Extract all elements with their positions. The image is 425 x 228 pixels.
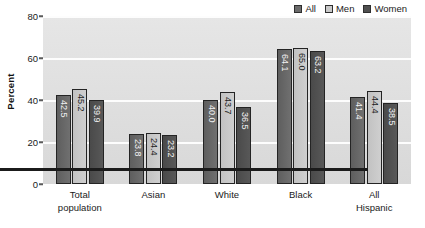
bar-asian-men[interactable]: 24.4 (146, 133, 161, 184)
y-tick-label: 0 (5, 179, 43, 190)
bar-value-label: 41.4 (353, 102, 362, 120)
bar-black-men[interactable]: 65.0 (293, 48, 308, 185)
bar-total-population-women[interactable]: 39.9 (89, 100, 104, 184)
bar-white-all[interactable]: 40.0 (203, 100, 218, 184)
plot-area-wrapper: 42.545.239.923.824.423.240.043.736.564.1… (43, 16, 411, 184)
bar-groups: 42.545.239.923.824.423.240.043.736.564.1… (43, 16, 411, 184)
x-axis-label-line1: Total (70, 189, 90, 200)
x-axis-label: AllHispanic (337, 189, 411, 214)
bar-total-population-all[interactable]: 42.5 (56, 95, 71, 184)
x-axis-label-line1: All (369, 189, 380, 200)
bar-group: 64.165.063.2 (277, 16, 325, 184)
bar-all-hispanic-men[interactable]: 44.4 (367, 91, 382, 184)
y-tick-label: 80 (5, 11, 43, 22)
bar-value-label: 40.0 (206, 105, 215, 123)
bar-value-label: 45.2 (75, 94, 84, 112)
legend-swatch-icon (325, 5, 333, 13)
y-tick-label: 20 (5, 137, 43, 148)
legend-swatch-icon (294, 5, 302, 13)
bar-value-label: 38.5 (386, 108, 395, 126)
bar-value-label: 23.2 (165, 140, 174, 158)
bar-group: 23.824.423.2 (129, 16, 177, 184)
bar-value-label: 63.2 (313, 56, 322, 74)
bar-all-hispanic-women[interactable]: 38.5 (383, 103, 398, 184)
x-axis-label: Black (264, 189, 338, 202)
legend-item-women[interactable]: Women (363, 4, 407, 14)
bar-chart: AllMenWomen Percent 020406080 42.545.239… (0, 0, 425, 228)
x-axis-label: Asian (117, 189, 191, 202)
bar-value-label: 24.4 (149, 138, 158, 156)
bar-value-label: 42.5 (59, 100, 68, 118)
x-axis-label-line1: White (215, 189, 239, 200)
bar-group: 42.545.239.9 (56, 16, 104, 184)
bar-group: 41.444.438.5 (350, 16, 398, 184)
y-axis-ticks: 020406080 (0, 16, 43, 184)
x-axis-line (0, 168, 368, 171)
legend-label: Women (374, 4, 407, 14)
x-axis-labels: TotalpopulationAsianWhiteBlackAllHispani… (43, 189, 411, 227)
y-tick-label: 60 (5, 53, 43, 64)
bar-value-label: 65.0 (296, 53, 305, 71)
x-axis-label-line2: population (43, 202, 117, 215)
bar-value-label: 39.9 (92, 105, 101, 123)
y-tick-label: 40 (5, 95, 43, 106)
bar-value-label: 36.5 (239, 112, 248, 130)
legend-item-men[interactable]: Men (325, 4, 354, 14)
bar-value-label: 44.4 (370, 96, 379, 114)
legend-label: All (305, 4, 316, 14)
legend-label: Men (336, 4, 354, 14)
bar-value-label: 43.7 (223, 97, 232, 115)
bar-white-women[interactable]: 36.5 (236, 107, 251, 184)
bar-value-label: 64.1 (280, 54, 289, 72)
bar-all-hispanic-all[interactable]: 41.4 (350, 97, 365, 184)
legend-swatch-icon (363, 5, 371, 13)
x-axis-label-line2: Hispanic (337, 202, 411, 215)
bar-asian-women[interactable]: 23.2 (162, 135, 177, 184)
chart-legend: AllMenWomen (294, 2, 407, 16)
legend-item-all[interactable]: All (294, 4, 316, 14)
bar-value-label: 23.8 (132, 139, 141, 157)
bar-group: 40.043.736.5 (203, 16, 251, 184)
bar-asian-all[interactable]: 23.8 (129, 134, 144, 184)
bar-black-all[interactable]: 64.1 (277, 49, 292, 184)
bar-black-women[interactable]: 63.2 (310, 51, 325, 184)
x-axis-label: White (190, 189, 264, 202)
x-axis-label-line1: Asian (142, 189, 166, 200)
x-axis-label: Totalpopulation (43, 189, 117, 214)
x-axis-label-line1: Black (289, 189, 312, 200)
